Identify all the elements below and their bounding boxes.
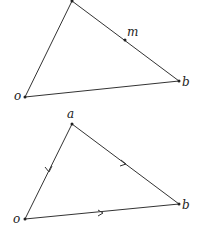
label-m: m [127, 25, 138, 39]
point-b [178, 80, 181, 83]
triangle-bottom: a b o [13, 107, 190, 226]
label-b: b [182, 75, 190, 89]
label-a: a [67, 107, 74, 121]
arrow-o-to-b-icon [98, 210, 103, 216]
label-o: o [14, 89, 21, 103]
label-b: b [182, 198, 190, 212]
point-a [71, 123, 74, 126]
edge-o-b [25, 204, 179, 219]
triangle-top: m b o [14, 0, 190, 103]
edge-o-b [25, 81, 179, 97]
point-b [178, 203, 181, 206]
point-o [24, 96, 27, 99]
vector-triangles-diagram: m b o a b o [0, 0, 206, 238]
label-o: o [13, 212, 20, 226]
edge-a-o [25, 1, 72, 97]
point-o [24, 218, 27, 221]
